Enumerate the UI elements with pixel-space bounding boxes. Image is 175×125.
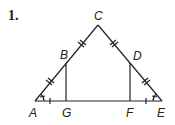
label-e: E [157, 106, 166, 120]
angle-mark-a [40, 94, 45, 101]
label-f: F [126, 106, 134, 120]
angle-mark-e [152, 94, 157, 101]
label-a: A [28, 106, 37, 120]
label-c: C [94, 9, 103, 23]
label-d: D [133, 49, 142, 63]
label-b: B [60, 48, 68, 62]
label-g: G [62, 106, 71, 120]
geometry-figure: A B C D E F G [0, 0, 175, 125]
